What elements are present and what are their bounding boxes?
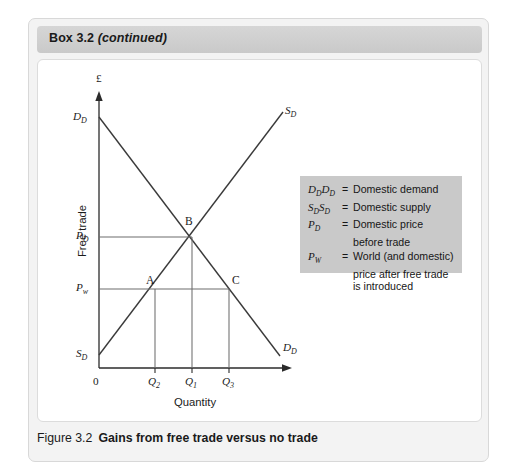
legend-symbol-ss: SDSD bbox=[308, 201, 342, 219]
legend-text-0: Domestic demand bbox=[353, 183, 438, 195]
point-label-a: A bbox=[146, 274, 154, 286]
origin-label: 0 bbox=[93, 375, 99, 387]
demand-intercept-label: DD bbox=[73, 110, 87, 125]
legend-text-2: Domestic price bbox=[353, 218, 423, 230]
legend-equals-1: = bbox=[342, 201, 353, 213]
tick-label-q2: Q2 bbox=[148, 375, 160, 390]
legend-equals-3: = bbox=[342, 250, 353, 262]
supply-intercept-label: SD bbox=[76, 347, 87, 362]
legend-text-final-cont: is introduced bbox=[353, 280, 462, 292]
legend-row-supply: SDSD = Domestic supply bbox=[308, 201, 462, 219]
chart-legend: DDDD = Domestic demand SDSD = Domestic s… bbox=[300, 176, 462, 273]
box-header-bar: Box 3.2 (continued) bbox=[37, 26, 482, 53]
point-label-b: B bbox=[185, 215, 193, 227]
legend-row-price-world: PW = World (and domestic) bbox=[308, 250, 462, 268]
x-axis-title: Quantity bbox=[130, 396, 260, 408]
point-label-c: C bbox=[232, 274, 240, 286]
legend-text-3-cont: price after free trade bbox=[353, 268, 462, 280]
box-header-title: Box 3.2 (continued) bbox=[49, 31, 167, 45]
legend-symbol-pw: PW bbox=[308, 250, 342, 268]
legend-text-1: Domestic supply bbox=[353, 201, 431, 213]
legend-row-price-domestic: PD = Domestic price bbox=[308, 218, 462, 236]
tick-label-q1: Q1 bbox=[185, 375, 197, 390]
legend-row-demand: DDDD = Domestic demand bbox=[308, 183, 462, 201]
tick-label-q3: Q3 bbox=[222, 375, 234, 390]
demand-curve-label: DD bbox=[283, 341, 297, 356]
box-header-continued: (continued) bbox=[98, 31, 167, 45]
legend-symbol-pd: PD bbox=[308, 218, 342, 236]
caption-title: Gains from free trade versus no trade bbox=[98, 431, 317, 445]
price-world-label: Pw bbox=[76, 281, 88, 296]
currency-label: £ bbox=[96, 72, 102, 84]
box-header-prefix: Box 3.2 bbox=[49, 31, 98, 45]
caption-number: Figure 3.2 bbox=[37, 431, 92, 445]
legend-equals-2: = bbox=[342, 218, 353, 230]
legend-equals-0: = bbox=[342, 183, 353, 195]
y-axis-title: Free trade bbox=[76, 196, 88, 266]
supply-curve-label: SD bbox=[285, 104, 296, 119]
figure-caption: Figure 3.2Gains from free trade versus n… bbox=[37, 431, 482, 445]
legend-text-3: World (and domestic) bbox=[353, 250, 453, 262]
legend-symbol-dd: DDDD bbox=[308, 183, 342, 201]
legend-text-2-cont: before trade bbox=[353, 236, 462, 248]
